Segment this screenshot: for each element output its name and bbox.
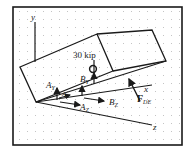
x-axis-label: x — [143, 84, 148, 94]
free-body-diagram: y x z 30 kip BY AY AX AZ BZ FDE — [0, 0, 190, 152]
figure-frame — [13, 7, 182, 145]
load-label: 30 kip — [73, 50, 96, 60]
z-axis-label: z — [152, 122, 157, 132]
y-axis-label: y — [30, 12, 35, 22]
